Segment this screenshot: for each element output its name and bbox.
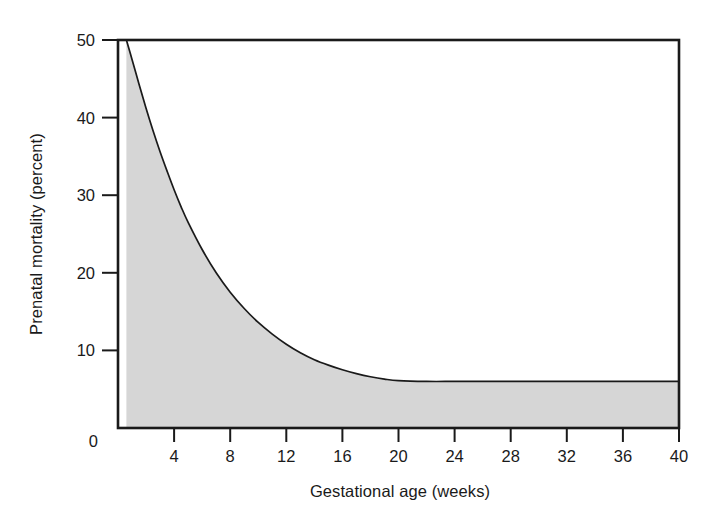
x-tick-label: 12 xyxy=(277,447,295,465)
prenatal-mortality-area-chart: 01020304050 481216202428323640 Prenatal … xyxy=(0,0,720,525)
x-axis-title: Gestational age (weeks) xyxy=(310,482,490,500)
chart-figure: 01020304050 481216202428323640 Prenatal … xyxy=(0,0,720,525)
x-tick-label: 20 xyxy=(389,447,407,465)
y-tick-label: 20 xyxy=(77,264,95,282)
y-axis: 01020304050 xyxy=(77,31,118,450)
x-tick-label: 40 xyxy=(670,447,688,465)
x-tick-label: 36 xyxy=(614,447,632,465)
x-tick-label: 32 xyxy=(558,447,576,465)
y-tick-label: 50 xyxy=(77,31,95,49)
x-tick-label: 4 xyxy=(170,447,179,465)
y-tick-label: 0 xyxy=(89,432,98,450)
y-axis-title: Prenatal mortality (percent) xyxy=(27,133,45,335)
x-tick-label: 8 xyxy=(226,447,235,465)
x-tick-label: 16 xyxy=(333,447,351,465)
x-axis: 481216202428323640 xyxy=(170,428,689,465)
y-tick-label: 40 xyxy=(77,109,95,127)
x-tick-label: 24 xyxy=(445,447,463,465)
y-tick-label: 30 xyxy=(77,186,95,204)
y-tick-label: 10 xyxy=(77,341,95,359)
x-tick-label: 28 xyxy=(502,447,520,465)
